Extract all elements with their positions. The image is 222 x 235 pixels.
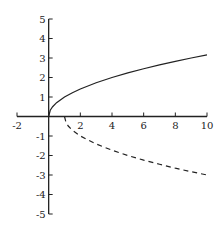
- x-tick-label: 2: [77, 120, 83, 131]
- y-tick-label: -1: [36, 131, 46, 142]
- y-tick-label: -3: [36, 170, 46, 181]
- x-tick-label: 10: [201, 120, 214, 131]
- series: [49, 55, 207, 175]
- chart: -224681054321-1-2-3-4-5: [0, 0, 222, 235]
- y-tick-label: -5: [36, 209, 46, 220]
- dashed-curve: [65, 117, 208, 176]
- solid-curve: [49, 55, 207, 117]
- y-tick-label: 1: [39, 92, 45, 103]
- y-tick-label: 5: [39, 14, 45, 25]
- y-tick-label: 4: [39, 33, 45, 44]
- x-tick-label: 4: [109, 120, 115, 131]
- x-tick-label: -2: [12, 120, 22, 131]
- x-tick-label: 6: [140, 120, 146, 131]
- y-tick-label: 3: [39, 53, 45, 64]
- y-tick-label: 2: [39, 72, 45, 83]
- x-tick-label: 8: [172, 120, 178, 131]
- y-tick-label: -4: [36, 189, 46, 200]
- y-tick-label: -2: [36, 150, 46, 161]
